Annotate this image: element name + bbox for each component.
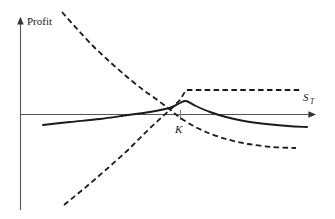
x-axis-label: S xyxy=(303,91,309,103)
x-axis-label-subscript: T xyxy=(310,97,315,106)
series-long-call-payoff xyxy=(64,90,300,205)
strike-label: K xyxy=(174,123,183,135)
profit-diagram: Profit S T K xyxy=(0,0,335,219)
figure-canvas: Profit S T K xyxy=(0,0,335,219)
y-axis-label: Profit xyxy=(27,15,52,27)
